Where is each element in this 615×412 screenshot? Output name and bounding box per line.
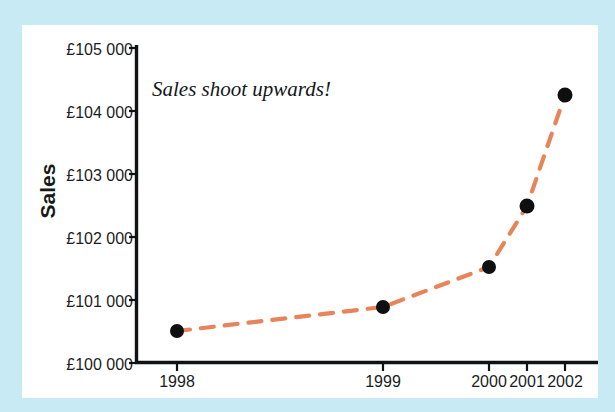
x-tick-label-2002: 2002 [547, 373, 583, 391]
chart-annotation: Sales shoot upwards! [152, 77, 331, 102]
x-tick-label-2001: 2001 [509, 373, 545, 391]
x-tick-label-1999: 1999 [365, 373, 401, 391]
chart-panel: Sales £100 000 £101 000 £102 000 £103 00… [22, 25, 598, 398]
x-tick-label-1998: 1998 [159, 373, 195, 391]
chart-screenshot: Sales £100 000 £101 000 £102 000 £103 00… [0, 0, 615, 412]
x-tick-label-2000: 2000 [471, 373, 507, 391]
